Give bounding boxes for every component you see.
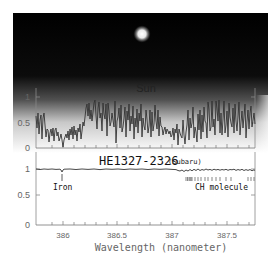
spectrum-figure: 1 0.5 0 Sun 1 0.5 0 HE1327-2326 bbox=[0, 0, 278, 257]
sun-ytick-0.5: 0.5 bbox=[17, 118, 30, 128]
right-fade bbox=[256, 95, 268, 153]
ch-molecule-markers bbox=[186, 177, 254, 181]
xtick-387.5: 387.5 bbox=[217, 231, 238, 240]
sun-ytick-0: 0 bbox=[25, 143, 30, 153]
sun-title: Sun bbox=[136, 82, 156, 94]
ch-molecule-label: CH molecule bbox=[195, 183, 248, 192]
sun-glow-icon bbox=[133, 25, 151, 43]
xtick-386: 386 bbox=[56, 231, 70, 240]
star-ytick-0.5: 0.5 bbox=[17, 190, 30, 200]
star-panel: 1 0.5 0 HE1327-2326 (Subaru) Iron bbox=[17, 152, 255, 230]
star-xticks bbox=[52, 221, 249, 225]
star-spectrum-line bbox=[36, 169, 255, 172]
xtick-387: 387 bbox=[165, 231, 179, 240]
xtick-386.5: 386.5 bbox=[107, 231, 128, 240]
star-subtitle: (Subaru) bbox=[168, 158, 202, 166]
star-title: HE1327-2326 bbox=[99, 154, 178, 168]
star-ytick-0: 0 bbox=[25, 220, 30, 230]
x-axis-label: Wavelength (nanometer) bbox=[95, 242, 227, 253]
sun-ytick-1: 1 bbox=[25, 92, 30, 102]
star-ytick-1: 1 bbox=[25, 164, 30, 174]
iron-label: Iron bbox=[53, 183, 72, 192]
